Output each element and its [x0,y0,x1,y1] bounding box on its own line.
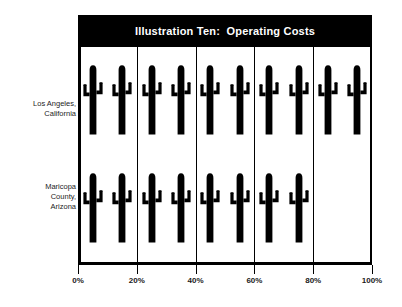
cactus-icon [82,64,104,136]
axis-label-100pct: 100% [362,276,382,285]
row-label-maricopa-county: Maricopa County, Arizona [45,182,76,212]
pictogram-chart-figure: Illustration Ten: Operating Costs Los An… [0,0,402,307]
cactus-icon [82,172,104,244]
axis-tick-100pct [372,265,373,274]
axis-tick-60pct [254,265,255,274]
row-label-line: Maricopa [45,182,76,192]
cactus-icon [346,64,368,136]
cactus-icon [141,64,163,136]
cactus-icon [170,172,192,244]
cactus-icon [199,64,221,136]
axis-tick-80pct [313,265,314,274]
cactus-icon [229,172,251,244]
axis-label-20pct: 20% [129,276,145,285]
axis-label-60pct: 60% [246,276,262,285]
cactus-icon [229,64,251,136]
axis-label-80pct: 80% [305,276,321,285]
axis-tick-0pct [78,265,79,274]
row-label-los-angeles: Los Angeles, California [33,99,76,119]
axis-label-40pct: 40% [188,276,204,285]
x-axis-labels: 0%20%40%60%80%100% [0,276,402,290]
cactus-icon [288,64,310,136]
cactus-icon [111,172,133,244]
axis-tick-40pct [196,265,197,274]
cactus-icon [258,172,280,244]
page-title: Illustration Ten: Operating Costs [135,25,315,37]
x-axis-ticks [0,265,402,275]
chart-title-banner: Illustration Ten: Operating Costs [78,15,372,47]
cactus-icon [141,172,163,244]
cactus-icon [258,64,280,136]
row-label-line: Los Angeles, [33,99,76,109]
row-label-line: County, [45,192,76,202]
cactus-icon [288,172,310,244]
cactus-icon [199,172,221,244]
cactus-icon [111,64,133,136]
axis-label-0pct: 0% [72,276,84,285]
row-label-line: Arizona [45,202,76,212]
cactus-icon [317,64,339,136]
row-label-line: California [33,109,76,119]
axis-tick-20pct [137,265,138,274]
pictogram-row-los-angeles [78,64,372,136]
pictogram-row-maricopa-county [78,172,372,244]
cactus-icon [170,64,192,136]
